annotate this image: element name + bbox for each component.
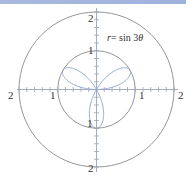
label-x-pos2: 2 bbox=[178, 89, 184, 101]
label-y-neg1: 1 bbox=[87, 117, 93, 129]
polar-plot: 2 1 1 2 2 1 1 2 r= sin 3θ bbox=[0, 0, 196, 181]
axes bbox=[17, 8, 178, 172]
axis-labels: 2 1 1 2 2 1 1 2 bbox=[8, 12, 184, 174]
label-y-pos2: 2 bbox=[88, 12, 94, 24]
label-y-neg2: 2 bbox=[88, 162, 94, 174]
label-y-pos1: 1 bbox=[88, 44, 94, 56]
equation-label: r= sin 3θ bbox=[107, 32, 143, 43]
label-x-neg2: 2 bbox=[8, 89, 14, 101]
label-x-neg1: 1 bbox=[50, 89, 56, 101]
label-x-pos1: 1 bbox=[139, 89, 145, 101]
